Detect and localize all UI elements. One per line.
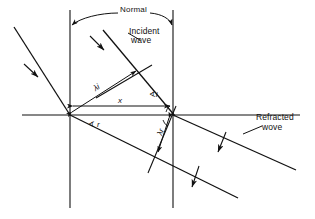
incident-direction-arrow-2 <box>90 36 104 50</box>
normal-label: Normal <box>120 6 147 14</box>
wavefront-segment-lower <box>148 106 176 173</box>
figure-canvas: Normal Incident wave Refracted wove ∢i ∢… <box>0 0 315 219</box>
wavefront-segment-upper <box>96 65 152 98</box>
angle-of-refraction-label: ∢ r <box>88 121 100 129</box>
distance-x-label: x <box>118 97 122 105</box>
incident-wavefront-1 <box>14 27 70 115</box>
incident-direction-arrow-1 <box>24 64 38 77</box>
normal-arc-left <box>72 13 118 25</box>
incident-wave-label-line2: wave <box>131 36 151 45</box>
refracted-leader-line <box>243 126 262 134</box>
angle-of-incidence-label: ∢i <box>149 91 157 99</box>
normal-arc-right <box>150 13 172 25</box>
refracted-wave-label-line2: wove <box>262 123 282 132</box>
refracted-wave-label-line1: Refracted <box>256 113 294 122</box>
